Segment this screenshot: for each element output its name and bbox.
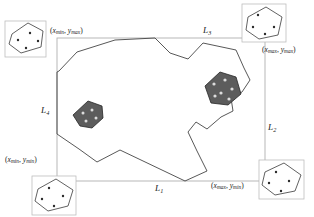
corner-label-bottom-left: (xmin, ymin) bbox=[5, 156, 37, 165]
x-sub: max bbox=[217, 184, 226, 190]
x-sub: min bbox=[11, 158, 19, 164]
side-sub: 3 bbox=[208, 29, 211, 36]
corner-label-bottom-right: (xmax, ymin) bbox=[211, 182, 244, 191]
shaded-polygon-large bbox=[205, 72, 241, 105]
side-sub: 1 bbox=[160, 187, 163, 194]
x-sub: max bbox=[268, 48, 277, 54]
paren-close: ) bbox=[34, 155, 37, 164]
shaded-polygon-small bbox=[73, 101, 103, 128]
inset-bottom-left bbox=[32, 176, 76, 215]
side-label-right-L2: L2 bbox=[268, 123, 276, 133]
paren-close: ) bbox=[241, 181, 244, 190]
y-sub: min bbox=[233, 184, 241, 190]
paren-close: ) bbox=[80, 26, 83, 35]
side-label-left-L4: L4 bbox=[41, 106, 49, 116]
paren-close: ) bbox=[293, 45, 296, 54]
corner-label-top-right: (xmax, ymax) bbox=[262, 46, 296, 55]
side-sub: 4 bbox=[46, 109, 49, 116]
inset-top-left bbox=[5, 21, 46, 57]
y-sub: max bbox=[284, 48, 293, 54]
side-sub: 2 bbox=[273, 126, 276, 133]
side-label-top-L3: L3 bbox=[203, 26, 211, 36]
y-sub: max bbox=[71, 29, 80, 35]
x-sub: min bbox=[56, 29, 64, 35]
inset-top-right bbox=[242, 4, 286, 42]
inset-bottom-right bbox=[259, 160, 304, 199]
figure-canvas: (xmin, ymax) (xmax, ymax) (xmin, ymin) (… bbox=[0, 0, 314, 217]
corner-label-top-left: (xmin, ymax) bbox=[50, 27, 83, 36]
side-label-bottom-L1: L1 bbox=[155, 184, 163, 194]
